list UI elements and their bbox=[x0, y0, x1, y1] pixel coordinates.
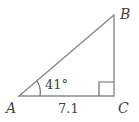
vertex-b-label: B bbox=[119, 6, 130, 22]
triangle-diagram: 41° A B C 7.1 bbox=[0, 0, 139, 122]
side-ac-label: 7.1 bbox=[58, 101, 79, 116]
angle-a-label: 41° bbox=[45, 77, 68, 92]
right-angle-marker bbox=[99, 82, 114, 96]
vertex-a-label: A bbox=[4, 100, 16, 116]
angle-arc-a bbox=[37, 81, 40, 96]
vertex-c-label: C bbox=[118, 100, 129, 116]
